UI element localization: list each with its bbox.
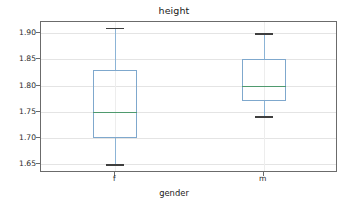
- y-axis-tick-mark: [36, 137, 40, 138]
- y-axis-tick-mark: [36, 58, 40, 59]
- cap-upper: [255, 33, 273, 34]
- cap-lower: [255, 116, 273, 117]
- y-axis-tick-mark: [36, 111, 40, 112]
- chart-title: height: [0, 5, 348, 16]
- boxplot-figure: height 1.651.701.751.801.851.90 fm gende…: [0, 0, 348, 207]
- y-axis-tick-marks: [0, 21, 40, 172]
- x-axis-tick-label-m: m: [243, 174, 283, 183]
- box-m: [41, 22, 338, 171]
- x-axis-label: gender: [0, 188, 348, 198]
- y-axis-tick-mark: [36, 32, 40, 33]
- box-iqr: [242, 59, 286, 101]
- x-axis-tick-labels: fm: [40, 174, 337, 188]
- plot-area: [40, 21, 337, 172]
- whisker-lower: [264, 101, 265, 116]
- y-axis-tick-mark: [36, 85, 40, 86]
- whisker-upper: [264, 33, 265, 59]
- y-axis-tick-mark: [36, 163, 40, 164]
- x-axis-tick-label-f: f: [94, 174, 134, 183]
- median-line: [242, 86, 286, 87]
